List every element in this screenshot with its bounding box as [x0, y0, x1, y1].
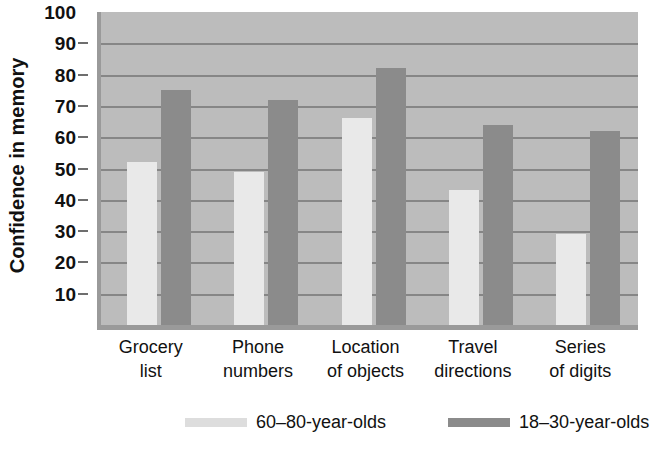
legend-swatch-icon [185, 418, 247, 427]
y-axis-tick-mark-90 [78, 42, 88, 44]
plot-area [97, 12, 638, 330]
bar-older-2 [342, 118, 372, 325]
x-axis-label-line: of digits [527, 360, 634, 384]
y-axis-tick-40: 40 [55, 190, 76, 209]
x-axis-label-1: Phonenumbers [204, 336, 311, 384]
x-axis-label-line: Grocery [97, 336, 204, 360]
legend-label: 18–30-year-olds [519, 412, 649, 433]
bar-younger-4 [590, 131, 620, 325]
y-axis-tick-70: 70 [55, 96, 76, 115]
y-axis-tick-60: 60 [55, 128, 76, 147]
y-axis-tick-50: 50 [55, 159, 76, 178]
legend-label: 60–80-year-olds [256, 412, 386, 433]
legend-item-younger: 18–30-year-olds [448, 412, 649, 433]
y-axis-tick-mark-50 [78, 168, 88, 170]
y-axis-tick-mark-10 [78, 293, 88, 295]
x-axis-label-line: numbers [204, 360, 311, 384]
y-axis-tick-30: 30 [55, 222, 76, 241]
chart-legend: 60–80-year-olds18–30-year-olds [97, 406, 651, 438]
x-axis-label-0: Grocerylist [97, 336, 204, 384]
y-axis-tick-mark-60 [78, 136, 88, 138]
x-axis-label-line: Series [527, 336, 634, 360]
y-axis-tick-10: 10 [55, 284, 76, 303]
y-axis-tick-labels: 100908070605040302010 [34, 0, 88, 330]
legend-swatch-icon [448, 418, 510, 427]
y-axis-tick-mark-20 [78, 261, 88, 263]
x-axis-label-line: of objects [312, 360, 419, 384]
bar-younger-3 [483, 125, 513, 325]
y-axis-title-text: Confidence in memory [7, 57, 30, 273]
x-axis-label-line: Phone [204, 336, 311, 360]
y-axis-tick-mark-80 [78, 74, 88, 76]
x-axis-label-3: Traveldirections [419, 336, 526, 384]
x-axis-label-line: directions [419, 360, 526, 384]
x-axis-category-labels: GrocerylistPhonenumbersLocationof object… [97, 336, 638, 398]
bar-younger-1 [268, 100, 298, 325]
x-axis-label-2: Locationof objects [312, 336, 419, 384]
y-axis-tick-80: 80 [55, 65, 76, 84]
y-axis-tick-mark-70 [78, 105, 88, 107]
bar-older-1 [234, 172, 264, 325]
x-axis-label-line: list [97, 360, 204, 384]
x-axis-label-line: Travel [419, 336, 526, 360]
y-axis-tick-mark-40 [78, 199, 88, 201]
y-axis-tick-mark-30 [78, 230, 88, 232]
y-axis-tick-100: 100 [44, 3, 76, 22]
bar-older-3 [449, 190, 479, 325]
x-axis-label-line: Location [312, 336, 419, 360]
x-axis-label-4: Seriesof digits [527, 336, 634, 384]
bar-younger-2 [376, 68, 406, 325]
y-axis-tick-20: 20 [55, 253, 76, 272]
y-axis-title: Confidence in memory [0, 0, 36, 330]
legend-item-older: 60–80-year-olds [185, 412, 386, 433]
bar-older-4 [556, 234, 586, 325]
bar-chart: Confidence in memory 1009080706050403020… [0, 0, 651, 450]
bar-younger-0 [161, 90, 191, 325]
bars-layer [101, 12, 638, 325]
bar-older-0 [127, 162, 157, 325]
y-axis-tick-90: 90 [55, 34, 76, 53]
